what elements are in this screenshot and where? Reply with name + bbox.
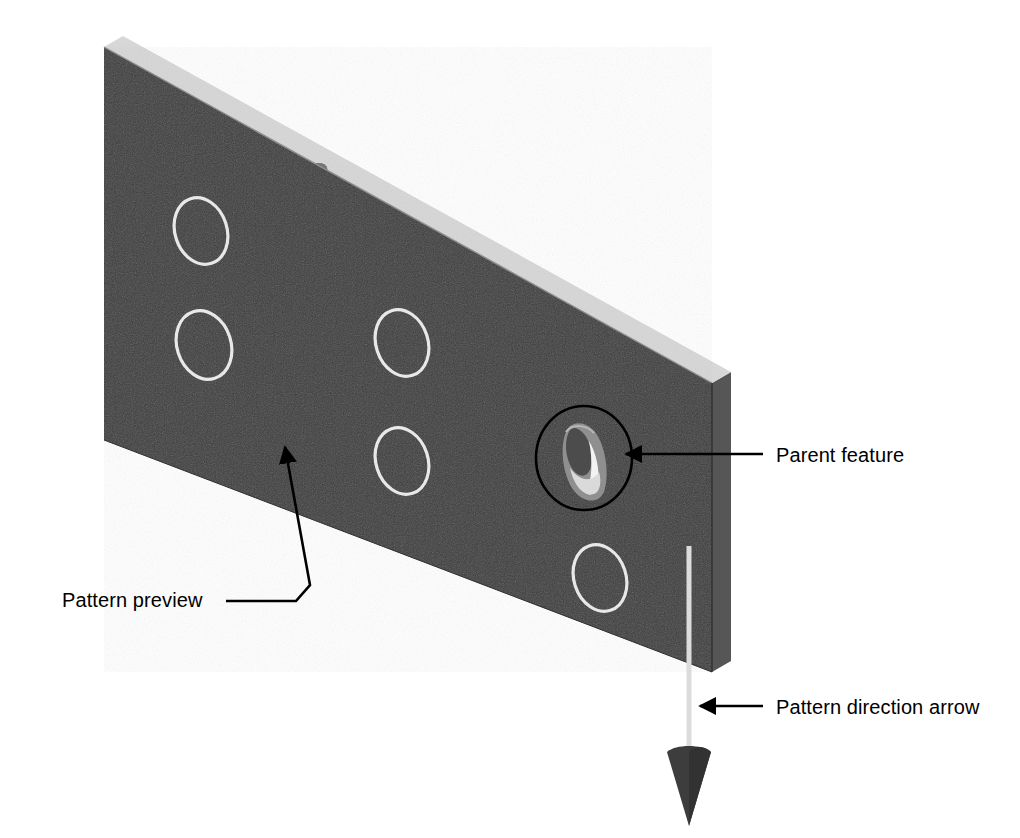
plate-side-face — [712, 372, 731, 672]
illustration-canvas: Parent feature Pattern direction arrow P… — [0, 0, 1020, 838]
callout-label-pattern-direction-arrow: Pattern direction arrow — [776, 696, 980, 719]
callout-label-parent-feature: Parent feature — [776, 444, 904, 467]
direction-arrow-cone-shade — [689, 747, 711, 826]
plate-solid — [104, 36, 731, 672]
callout-label-pattern-preview: Pattern preview — [62, 589, 202, 612]
plate-front-face — [104, 47, 712, 672]
